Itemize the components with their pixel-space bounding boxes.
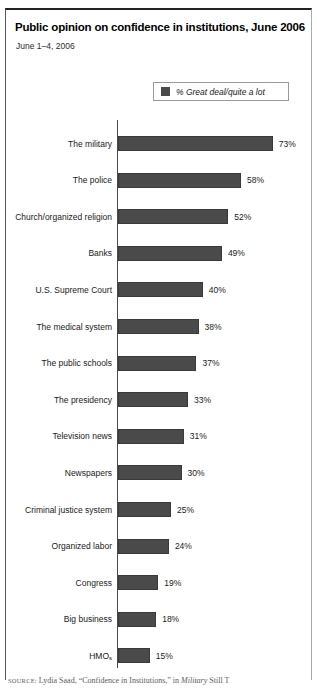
bar-value-label: 58% xyxy=(247,176,264,185)
chart-bar xyxy=(118,319,199,334)
category-label: Banks xyxy=(88,249,112,258)
chart-bar xyxy=(118,612,156,627)
chart-figure: Public opinion on confidence in institut… xyxy=(5,8,312,680)
chart-bar xyxy=(118,356,196,371)
bar-value-label: 19% xyxy=(164,578,181,587)
category-label: Television news xyxy=(52,432,112,441)
bar-row: U.S. Supreme Court40% xyxy=(6,282,313,297)
chart-bar xyxy=(118,136,273,151)
category-label: Organized labor xyxy=(52,542,112,551)
chart-bar xyxy=(118,539,169,554)
bar-value-label: 49% xyxy=(228,249,245,258)
source-note: SOURCE: Lydia Saad, “Confidence in Insti… xyxy=(8,676,313,686)
bar-value-label: 38% xyxy=(205,322,222,331)
chart-bar xyxy=(118,246,222,261)
bar-row: Big business18% xyxy=(6,612,313,627)
chart-bar xyxy=(118,173,241,188)
chart-bar xyxy=(118,465,182,480)
source-italic: Military xyxy=(181,676,207,685)
category-label: Newspapers xyxy=(65,469,112,478)
bar-value-label: 24% xyxy=(175,542,192,551)
bar-value-label: 18% xyxy=(162,615,179,624)
bar-row: The military73% xyxy=(6,136,313,151)
chart-legend: % Great deal/quite a lot xyxy=(153,82,289,101)
bar-row: Banks49% xyxy=(6,246,313,261)
category-label: Congress xyxy=(76,578,112,587)
chart-bar xyxy=(118,502,171,517)
bar-row: HMOs15% xyxy=(6,648,313,663)
chart-bar xyxy=(118,575,158,590)
category-label: Criminal justice system xyxy=(25,505,112,514)
category-label: The military xyxy=(68,139,112,148)
source-tail: Still T xyxy=(207,676,229,685)
bar-row: Congress19% xyxy=(6,575,313,590)
source-text: Lydia Saad, “Confidence in Institutions,… xyxy=(37,676,181,685)
bar-value-label: 37% xyxy=(202,359,219,368)
bar-row: The police58% xyxy=(6,173,313,188)
chart-plot-area: The military73%The police58%Church/organ… xyxy=(6,120,313,668)
bar-row: The presidency33% xyxy=(6,392,313,407)
chart-bar xyxy=(118,429,184,444)
category-label: Big business xyxy=(64,615,112,624)
chart-bar xyxy=(118,392,188,407)
source-prefix: SOURCE: xyxy=(8,677,37,684)
category-label: U.S. Supreme Court xyxy=(35,286,112,295)
chart-subtitle: June 1–4, 2006 xyxy=(16,41,75,51)
bar-value-label: 40% xyxy=(209,286,226,295)
page-title: Public opinion on confidence in institut… xyxy=(15,21,305,33)
bar-row: Television news31% xyxy=(6,429,313,444)
bar-value-label: 73% xyxy=(279,139,296,148)
bar-value-label: 30% xyxy=(188,469,205,478)
legend-swatch-icon xyxy=(161,87,170,96)
bar-row: The medical system38% xyxy=(6,319,313,334)
legend-label: % Great deal/quite a lot xyxy=(176,87,265,97)
bar-row: Church/organized religion52% xyxy=(6,209,313,224)
chart-bar xyxy=(118,282,203,297)
bar-value-label: 52% xyxy=(234,212,251,221)
bar-value-label: 33% xyxy=(194,395,211,404)
category-label: The police xyxy=(73,176,112,185)
bar-value-label: 15% xyxy=(156,652,173,661)
bar-row: The public schools37% xyxy=(6,356,313,371)
bar-row: Criminal justice system25% xyxy=(6,502,313,517)
category-label: The public schools xyxy=(42,359,112,368)
category-label: The presidency xyxy=(54,395,112,404)
bar-value-label: 31% xyxy=(190,432,207,441)
category-label: HMOs xyxy=(89,652,112,661)
bar-row: Organized labor24% xyxy=(6,539,313,554)
category-label: The medical system xyxy=(36,322,112,331)
bar-row: Newspapers30% xyxy=(6,465,313,480)
bar-value-label: 25% xyxy=(177,505,194,514)
chart-bar xyxy=(118,648,150,663)
category-label: Church/organized religion xyxy=(15,212,112,221)
chart-bar xyxy=(118,209,228,224)
